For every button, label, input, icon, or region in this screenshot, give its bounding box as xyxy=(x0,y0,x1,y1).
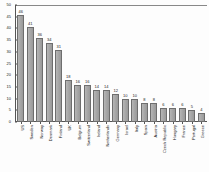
bar-value-label: 8 xyxy=(143,98,145,103)
bar-chart: 05101520253035404550 4641363431181616141… xyxy=(0,0,209,172)
x-axis-category-label: Germany xyxy=(116,125,120,141)
x-axis-category-label: Austria xyxy=(154,125,158,137)
x-axis-category-label: Czech Republic xyxy=(163,125,167,153)
x-axis-category-label: Norway xyxy=(40,125,44,139)
x-axis-category-label: France xyxy=(182,125,186,137)
bar-rect xyxy=(93,90,100,122)
x-axis-label-slot: Greece xyxy=(197,125,207,171)
x-axis-label-slot: Norway xyxy=(35,125,45,171)
y-axis-tick-label: 10 xyxy=(7,97,11,101)
bar-value-label: 14 xyxy=(104,85,108,90)
bar-rect xyxy=(150,103,157,122)
bar-item: 10 xyxy=(130,6,140,122)
bar-item: 16 xyxy=(73,6,83,122)
bar-rect xyxy=(46,43,53,122)
y-axis-tick-label: 50 xyxy=(7,3,11,7)
bar-value-label: 4 xyxy=(200,108,202,113)
y-axis-tick-label: 30 xyxy=(7,50,11,54)
y-axis-tick-label: 25 xyxy=(7,62,11,66)
x-axis-category-label: Netherlands xyxy=(106,125,110,147)
x-axis-label-slot: Switzerland xyxy=(83,125,93,171)
y-axis-tick-label: 40 xyxy=(7,26,11,30)
bar-item: 46 xyxy=(16,6,26,122)
x-axis-category-label: Spain xyxy=(144,125,148,135)
x-axis-category-label: Israel xyxy=(125,125,129,135)
x-axis-label-slot: Spain xyxy=(140,125,150,171)
x-axis-label-slot: Finland xyxy=(54,125,64,171)
bar-rect xyxy=(55,50,62,122)
bar-value-label: 31 xyxy=(57,45,61,50)
bar-value-label: 41 xyxy=(28,22,32,27)
bar-value-label: 36 xyxy=(38,33,42,38)
bar-value-label: 6 xyxy=(172,103,174,108)
bar-rect xyxy=(188,110,195,122)
x-axis-label-slot: Denmark xyxy=(45,125,55,171)
x-axis-category-label: Portugal xyxy=(192,125,196,140)
bar-item: 12 xyxy=(111,6,121,122)
x-axis-label-slot: Austria xyxy=(149,125,159,171)
bar-value-label: 5 xyxy=(191,105,193,110)
bar-rect xyxy=(122,99,129,122)
bar-value-label: 16 xyxy=(85,80,89,85)
x-axis-category-label: Belgium xyxy=(78,125,82,139)
y-axis-tick-label: 20 xyxy=(7,73,11,77)
x-axis-label-slot: Hungary xyxy=(168,125,178,171)
x-axis-label-slot: France xyxy=(178,125,188,171)
x-axis-category-label: US xyxy=(21,125,25,131)
y-axis-tick-labels: 05101520253035404550 xyxy=(0,5,13,122)
bar-rect xyxy=(141,103,148,122)
bar-rect xyxy=(131,99,138,122)
bar-rect xyxy=(198,113,205,122)
x-axis-category-label: Switzerland xyxy=(87,125,91,146)
bar-value-label: 8 xyxy=(153,98,155,103)
x-axis-label-slot: US xyxy=(16,125,26,171)
y-axis-tick-label: 15 xyxy=(7,85,11,89)
bar-item: 5 xyxy=(187,6,197,122)
bar-item: 31 xyxy=(54,6,64,122)
x-axis-label-slot: Ireland xyxy=(92,125,102,171)
bar-rect xyxy=(27,27,34,122)
bar-item: 8 xyxy=(149,6,159,122)
y-axis-tick-label: 45 xyxy=(7,15,11,19)
bar-item: 8 xyxy=(140,6,150,122)
bar-rect xyxy=(179,108,186,122)
y-axis-tick-label: 0 xyxy=(9,120,11,124)
x-axis-category-label: Finland xyxy=(59,125,63,138)
bar-rect xyxy=(103,90,110,122)
bar-item: 14 xyxy=(92,6,102,122)
bar-item: 6 xyxy=(168,6,178,122)
bar-rect xyxy=(36,38,43,122)
bar-value-label: 14 xyxy=(95,85,99,90)
x-axis-category-label: Sweden xyxy=(30,125,34,139)
bar-item: 41 xyxy=(26,6,36,122)
x-axis-category-label: Ireland xyxy=(97,125,101,137)
x-axis-category-labels: USSwedenNorwayDenmarkFinlandUKBelgiumSwi… xyxy=(16,125,206,171)
bar-item: 4 xyxy=(197,6,207,122)
x-axis-label-slot: Italy xyxy=(130,125,140,171)
x-axis-label-slot: Czech Republic xyxy=(159,125,169,171)
bar-rect xyxy=(74,85,81,122)
bar-item: 10 xyxy=(121,6,131,122)
x-axis-label-slot: Belgium xyxy=(73,125,83,171)
bar-item: 6 xyxy=(178,6,188,122)
x-axis-category-label: UK xyxy=(68,125,72,131)
x-axis-category-label: Italy xyxy=(135,125,139,132)
bar-rect xyxy=(160,108,167,122)
bar-rect xyxy=(65,80,72,122)
bar-value-label: 6 xyxy=(181,103,183,108)
bar-rect xyxy=(169,108,176,122)
x-axis-label-slot: Israel xyxy=(121,125,131,171)
bar-value-label: 34 xyxy=(47,38,51,43)
bar-rect xyxy=(84,85,91,122)
bar-value-label: 10 xyxy=(123,94,127,99)
x-axis-category-label: Greece xyxy=(201,125,205,138)
x-axis-label-slot: UK xyxy=(64,125,74,171)
x-axis-label-slot: Netherlands xyxy=(102,125,112,171)
bar-rect xyxy=(112,94,119,122)
bar-item: 18 xyxy=(64,6,74,122)
x-axis-category-label: Denmark xyxy=(49,125,53,141)
y-axis-tick-label: 35 xyxy=(7,38,11,42)
bar-value-label: 18 xyxy=(66,75,70,80)
bar-rect xyxy=(17,15,24,122)
bar-item: 14 xyxy=(102,6,112,122)
